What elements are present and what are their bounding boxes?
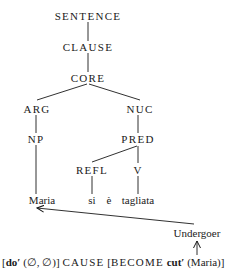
edge-core-nuc [89,84,140,100]
node-pred: PRED [121,134,154,145]
node-nuc: NUC [126,104,153,115]
word-maria: Maria [29,195,55,206]
arrow-undergoer-to-maria [37,208,194,224]
edge-core-arg [37,84,87,100]
word-si: si [88,195,95,206]
node-np: NP [28,134,45,145]
ls-cause: CAUSE [62,256,104,268]
word-tagliata: tagliata [122,195,154,206]
ls-do-predicate: do′ [6,256,21,268]
node-sentence: SENTENCE [55,11,122,22]
node-refl: REFL [76,165,108,176]
ls-cut-predicate: cut′ [167,256,185,268]
word-e: è [107,195,112,206]
node-v: V [133,165,142,176]
node-arg: ARG [23,104,50,115]
ls-become: BECOME [111,256,164,268]
edge-pred-refl [92,146,137,162]
ls-cut-args: (Maria)] [184,256,224,268]
node-core: CORE [71,73,106,84]
ls-do-args: (∅, ∅)] [20,256,62,268]
macrorole-undergoer: Undergoer [174,228,221,239]
logical-structure: [do′ (∅, ∅)] CAUSE [BECOME cut′ (Maria)] [2,257,224,268]
node-clause: CLAUSE [63,42,114,53]
